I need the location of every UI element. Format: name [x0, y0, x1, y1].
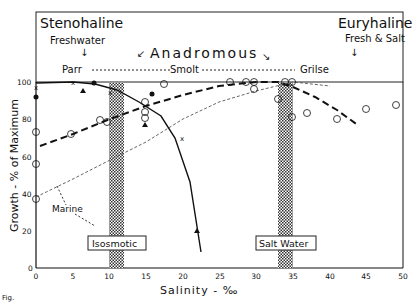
svg-text:15: 15: [141, 272, 151, 281]
svg-text:60: 60: [22, 153, 32, 162]
fresh-salt-label: Fresh & Salt: [345, 33, 405, 44]
salt-water-label: Salt Water: [259, 238, 308, 249]
open-circle-markers: [33, 79, 400, 203]
marine-pointer: [57, 186, 66, 205]
svg-text:x: x: [180, 135, 184, 143]
isosmotic-label: Isosmotic: [92, 238, 137, 249]
svg-text:0: 0: [28, 264, 33, 273]
svg-text:25: 25: [215, 272, 225, 281]
svg-text:35: 35: [288, 272, 298, 281]
svg-text:20: 20: [22, 227, 32, 236]
arrow-left-icon: ↙: [137, 48, 145, 59]
arrow-right-icon: ↘: [262, 51, 270, 62]
stenohaline-label: Stenohaline: [40, 15, 123, 31]
caption: Fig.: [2, 294, 14, 302]
svg-text:100: 100: [17, 78, 32, 87]
svg-text:x: x: [34, 84, 38, 92]
svg-text:40: 40: [325, 272, 335, 281]
anadromous-curve: [40, 82, 359, 146]
marine-label: Marine: [52, 204, 83, 214]
svg-text:80: 80: [22, 115, 32, 124]
svg-text:20: 20: [178, 272, 188, 281]
svg-text:45: 45: [361, 272, 371, 281]
svg-text:x: x: [71, 79, 75, 87]
y-axis-label: Growth - % of Maximum: [8, 99, 21, 232]
x-tick-labels: 0 5 10 15 20 25 30 35 40 45 50: [34, 272, 408, 281]
down-arrow-icon: ↓: [80, 47, 88, 58]
down-arrow-icon: ↓: [350, 47, 358, 58]
chart: Stenohaline Freshwater ↓ Parr Smolt Gril…: [0, 0, 415, 302]
x-axis-label: Salinity - ‰: [160, 284, 238, 297]
smolt-label: Smolt: [170, 64, 199, 75]
svg-text:10: 10: [104, 272, 114, 281]
svg-text:0: 0: [34, 272, 39, 281]
grilse-label: Grilse: [300, 64, 329, 75]
anadromous-label: Anadromous: [150, 45, 258, 61]
freshwater-label: Freshwater: [50, 35, 106, 46]
svg-text:40: 40: [22, 190, 32, 199]
svg-text:50: 50: [398, 272, 408, 281]
parr-label: Parr: [62, 64, 83, 75]
svg-text:x: x: [108, 89, 112, 97]
svg-text:30: 30: [251, 272, 261, 281]
svg-text:5: 5: [71, 272, 76, 281]
euryhaline-label: Euryhaline: [338, 15, 412, 31]
marine-pointer: [75, 214, 95, 226]
filled-circle-markers: [34, 81, 155, 100]
